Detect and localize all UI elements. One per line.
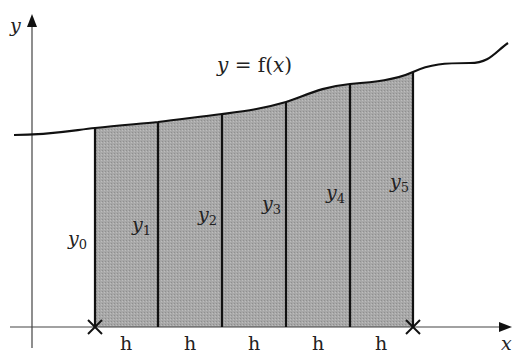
x-axis-label: x — [501, 332, 512, 354]
interval-label-5: h — [375, 332, 387, 354]
curve-label: y = f(x) — [216, 53, 292, 77]
interval-label-2: h — [184, 332, 196, 354]
y-axis-arrow-icon — [27, 14, 37, 27]
interval-label-4: h — [312, 332, 324, 354]
y-axis-label: y — [9, 14, 21, 36]
interval-label-3: h — [248, 332, 260, 354]
interval-label-1: h — [120, 332, 132, 354]
trapezoid-diagram: y x y = f(x) y0 y1 y2 y3 y4 y5 h h h h h — [0, 0, 515, 355]
ordinate-label-y0: y0 — [67, 227, 87, 252]
x-axis-arrow-icon — [499, 322, 512, 332]
interval-labels: h h h h h — [120, 332, 387, 354]
